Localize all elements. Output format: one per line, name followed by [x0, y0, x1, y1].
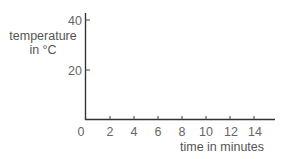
x-tick-label: 2: [107, 125, 114, 139]
x-axis-label: time in minutes: [180, 140, 264, 154]
y-axis-label-line-1: temperature: [9, 29, 76, 43]
x-tick-label: 14: [248, 125, 262, 139]
y-tick-label: 40: [68, 14, 82, 28]
y-tick-label: 20: [68, 64, 82, 78]
x-ticks: [110, 116, 254, 119]
x-tick-label: 10: [199, 125, 213, 139]
x-tick-label: 4: [131, 125, 138, 139]
chart: 40 20 temperature in °C 0 2 4 6 8 10 12 …: [0, 0, 286, 159]
y-axis-label-line-2: in °C: [29, 43, 56, 57]
x-tick-label: 6: [155, 125, 162, 139]
x-tick-label: 8: [179, 125, 186, 139]
x-tick-label: 12: [224, 125, 238, 139]
x-tick-label: 0: [78, 125, 85, 139]
